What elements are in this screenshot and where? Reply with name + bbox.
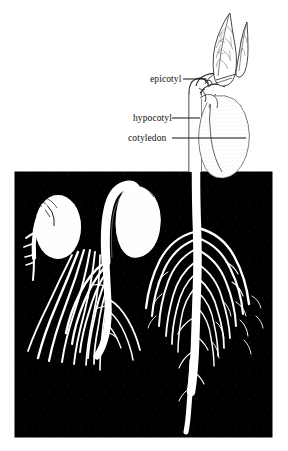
seedling-germination-figure: epicotyl hypocotyl cotyledon — [0, 0, 288, 451]
stage-3-above-ground — [189, 13, 249, 178]
label-epicotyl: epicotyl — [150, 75, 181, 85]
figure-canvas — [0, 0, 288, 451]
label-cotyledon: cotyledon — [128, 134, 166, 144]
leaf-group — [205, 13, 248, 86]
label-hypocotyl: hypocotyl — [133, 114, 172, 124]
cotyledon-shape — [199, 94, 250, 178]
